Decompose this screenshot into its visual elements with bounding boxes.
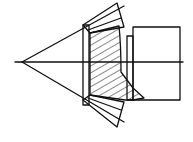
- bevel-gear-drawing: [0, 0, 193, 142]
- gear-back-face: [83, 25, 89, 105]
- gear-hatched-section: [90, 26, 144, 100]
- shaft: [133, 27, 180, 100]
